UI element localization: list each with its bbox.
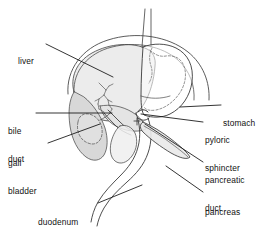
label-bile-duct-line-1: bile bbox=[8, 127, 24, 136]
label-pyloric-sphincter-line-1: pyloric bbox=[205, 136, 240, 145]
leader-line-pancreatic-duct bbox=[145, 124, 203, 162]
label-duodenum-line-1: duodenum bbox=[38, 218, 78, 227]
label-gall-bladder: gall bladder bbox=[8, 140, 37, 215]
label-liver: liver bbox=[18, 38, 34, 85]
label-gall-bladder-line-2: bladder bbox=[8, 187, 37, 196]
label-liver-line-1: liver bbox=[18, 57, 34, 66]
label-gall-bladder-line-1: gall bbox=[8, 159, 37, 168]
duodenal-bulb bbox=[110, 125, 136, 163]
label-pancreas-line-1: pancreas bbox=[205, 208, 240, 217]
figure-canvas: liver bile duct gall bladder duodenum st… bbox=[0, 0, 277, 234]
label-pancreatic-duct-line-1: pancreatic bbox=[205, 176, 245, 185]
leader-line-stomach bbox=[180, 105, 221, 107]
label-duodenum: duodenum bbox=[38, 199, 78, 234]
leader-line-duodenum bbox=[98, 185, 142, 203]
leader-line-pyloric-sphincter bbox=[141, 114, 203, 122]
label-pancreas: pancreas bbox=[205, 189, 240, 234]
stomach-body bbox=[141, 44, 192, 117]
leader-line-pancreas bbox=[166, 166, 203, 192]
esophagus bbox=[142, 9, 145, 47]
